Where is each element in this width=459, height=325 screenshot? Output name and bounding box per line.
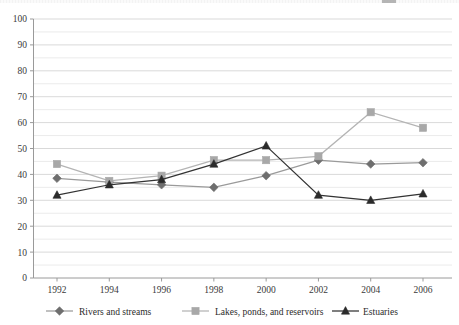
legend-item[interactable]: Estuaries [332,307,398,317]
data-point [262,171,271,180]
marker-diamond [366,160,375,169]
y-axis-tick-label: 40 [18,170,28,180]
line-chart: 0102030405060708090100 19921994199619982… [0,0,459,325]
marker-square [419,124,426,131]
x-axis-tick-label: 1996 [152,285,171,295]
marker-square [315,153,322,160]
gridlines-group [34,19,453,265]
data-point [419,158,428,167]
y-axis-tick-label: 100 [13,14,28,24]
y-axis-tick-label: 60 [18,118,28,128]
data-point [367,109,374,116]
y-axis-tick-label: 90 [18,40,28,50]
legend-item[interactable]: Lakes, ponds, and reservoirs [182,307,324,317]
chart-page: 0102030405060708090100 19921994199619982… [0,0,459,325]
data-point [315,153,322,160]
xtick-labels-group: 19921994199619982000200220042006 [48,285,433,295]
y-axis-tick-label: 70 [18,92,28,102]
marker-diamond [419,158,428,167]
y-axis-tick-label: 50 [18,144,28,154]
y-axis-tick-label: 10 [18,248,28,258]
ytick-labels-group: 0102030405060708090100 [13,14,28,283]
marker-square [192,307,199,314]
y-axis-tick-label: 30 [18,196,28,206]
data-point [53,160,60,167]
chart-plot-svg: 0102030405060708090100 19921994199619982… [0,0,459,325]
marker-triangle [419,189,427,197]
marker-square [367,109,374,116]
x-axis-tick-label: 1992 [48,285,67,295]
x-axis-tick-label: 2004 [361,285,380,295]
legend-item-label: Estuaries [363,307,398,317]
y-axis-tick-label: 20 [18,222,28,232]
data-point [419,124,426,131]
x-axis-tick-label: 2006 [414,285,433,295]
series-line [57,146,423,200]
data-point [263,157,270,164]
x-axis-tick-label: 2000 [257,285,276,295]
data-point [366,160,375,169]
y-axis-tick-label: 0 [22,273,27,283]
axes-group [30,19,452,282]
data-series [53,109,426,185]
data-series [53,142,427,204]
marker-diamond [210,183,219,192]
legend-item-label: Rivers and streams [79,307,152,317]
marker-diamond [55,307,64,316]
legend-item[interactable]: Rivers and streams [46,307,152,317]
marker-square [53,160,60,167]
marker-diamond [53,174,62,183]
x-axis-tick-label: 2002 [309,285,328,295]
marker-square [263,157,270,164]
x-axis-tick-label: 1998 [204,285,223,295]
x-axis-tick-label: 1994 [100,285,119,295]
legend-item-label: Lakes, ponds, and reservoirs [215,307,324,317]
y-axis-tick-label: 80 [18,66,28,76]
legend-group: Rivers and streamsLakes, ponds, and rese… [46,307,398,317]
data-point [419,189,427,197]
marker-diamond [262,171,271,180]
data-point [53,174,62,183]
data-point [210,183,219,192]
marker-triangle [262,142,270,150]
data-point [262,142,270,150]
